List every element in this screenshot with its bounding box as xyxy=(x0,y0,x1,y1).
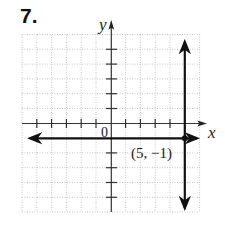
y-axis-label: y xyxy=(97,15,107,34)
origin-label: 0 xyxy=(101,125,108,140)
point-label: (5, −1) xyxy=(131,145,172,162)
x-axis-label: x xyxy=(207,123,216,142)
intersection-point xyxy=(182,135,188,141)
coordinate-graph: y x 0 (5, −1) xyxy=(0,0,225,226)
